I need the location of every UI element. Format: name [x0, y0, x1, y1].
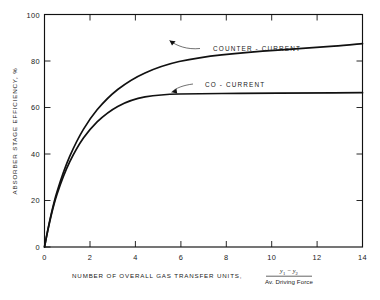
- fraction-numerator: y1 − y2: [279, 267, 299, 276]
- annotation-counter-current: COUNTER - CURRENT: [170, 41, 302, 53]
- series-counter-current: [45, 44, 363, 247]
- y-tick-label: 20: [31, 196, 40, 205]
- data-series: [45, 44, 363, 247]
- annotation-label-counter-current: COUNTER - CURRENT: [213, 45, 301, 52]
- x-tick-label: 14: [358, 253, 367, 262]
- plot-frame: [45, 15, 363, 248]
- x-tick-labels: 0 2 4 6 8 10 12 14: [42, 253, 367, 262]
- y-tick-label: 40: [31, 150, 40, 159]
- x-tick-label: 10: [267, 253, 276, 262]
- x-tick-label: 0: [42, 253, 47, 262]
- y-tick-label: 0: [35, 243, 40, 252]
- y-axis-ticks-right: [357, 61, 363, 201]
- x-axis-ticks-top: [90, 15, 317, 21]
- x-tick-label: 2: [88, 253, 93, 262]
- y-axis-ticks: [45, 15, 51, 248]
- x-tick-label: 8: [224, 253, 229, 262]
- y-tick-label: 100: [26, 11, 40, 20]
- y-tick-labels: 0 20 40 60 80 100: [26, 11, 40, 252]
- y-tick-label: 60: [31, 103, 40, 112]
- x-axis-title: NUMBER OF OVERALL GAS TRANSFER UNITS,: [72, 272, 242, 279]
- absorber-stage-efficiency-chart: 0 20 40 60 80 100 0 2 4 6 8 10 12 14 ABS…: [0, 0, 380, 300]
- x-tick-label: 4: [133, 253, 138, 262]
- x-axis-title-fraction: y1 − y2 Av. Driving Force: [265, 267, 313, 285]
- annotation-co-current: CO - CURRENT: [172, 81, 266, 94]
- fraction-denominator: Av. Driving Force: [265, 278, 313, 285]
- x-tick-label: 6: [179, 253, 184, 262]
- x-tick-label: 12: [313, 253, 322, 262]
- y-tick-label: 80: [31, 57, 40, 66]
- y-axis-title: ABSORBER STAGE EFFICIENCY, %: [11, 67, 18, 194]
- annotation-label-co-current: CO - CURRENT: [205, 81, 265, 88]
- x-axis-ticks: [45, 241, 363, 247]
